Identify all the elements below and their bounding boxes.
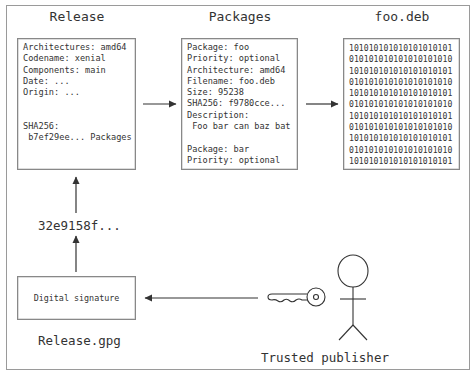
key-icon (268, 288, 325, 306)
diagram-connectors (0, 0, 476, 377)
publisher-figure-icon (338, 255, 368, 340)
